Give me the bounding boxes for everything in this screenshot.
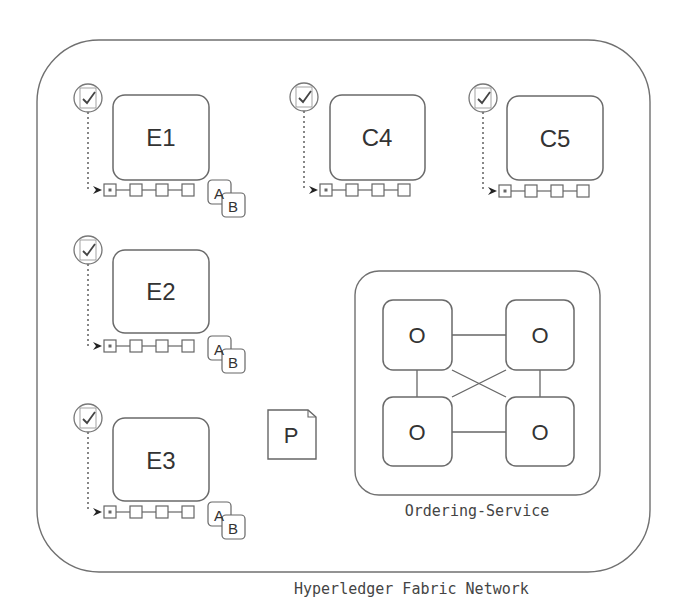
orderer-node-3[interactable]: O (383, 397, 452, 466)
peer-e3[interactable]: E3 A B (74, 404, 245, 539)
peer-label: C5 (540, 125, 571, 152)
svg-text:B: B (228, 354, 238, 371)
certificate-check-icon (469, 84, 497, 112)
ledger-chain-icon (309, 184, 410, 196)
chaincode-document-icon[interactable]: A B (208, 336, 245, 373)
ledger-chain-icon (93, 506, 194, 518)
svg-text:O: O (531, 420, 548, 445)
ledger-chain-icon (488, 185, 589, 197)
certificate-check-icon (74, 236, 102, 264)
orderer-node-4[interactable]: O (506, 397, 574, 466)
peer-c5[interactable]: C5 (469, 84, 603, 197)
svg-text:A: A (214, 341, 224, 358)
chaincode-document-icon[interactable]: A B (208, 502, 245, 539)
policy-label: P (284, 423, 299, 448)
svg-text:B: B (228, 520, 238, 537)
peer-c4[interactable]: C4 (290, 83, 425, 196)
svg-text:O: O (531, 323, 548, 348)
certificate-check-icon (74, 84, 102, 112)
svg-text:B: B (228, 198, 238, 215)
svg-text:A: A (214, 185, 224, 202)
peer-label: C4 (362, 124, 393, 151)
certificate-check-icon (290, 83, 318, 111)
ledger-chain-icon (93, 184, 194, 196)
ledger-chain-icon (93, 340, 194, 352)
svg-text:A: A (214, 507, 224, 524)
ordering-service-label: Ordering-Service (405, 502, 550, 520)
network-label: Hyperledger Fabric Network (294, 580, 529, 598)
peer-e2[interactable]: E2 A B (74, 236, 245, 373)
fabric-network-diagram: E1 A B C4 C5 E2 A B (0, 0, 677, 610)
peer-e1[interactable]: E1 A B (74, 84, 245, 217)
policy-document-icon[interactable]: P (268, 410, 316, 459)
chaincode-document-icon[interactable]: A B (208, 180, 245, 217)
svg-text:O: O (408, 323, 425, 348)
svg-text:O: O (408, 420, 425, 445)
ordering-service[interactable]: O O O O Ordering-Service (355, 271, 600, 520)
orderer-node-1[interactable]: O (383, 300, 452, 370)
orderer-node-2[interactable]: O (506, 300, 574, 370)
peer-label: E1 (146, 124, 175, 151)
certificate-check-icon (74, 404, 102, 432)
peer-label: E2 (146, 278, 175, 305)
peer-label: E3 (146, 447, 175, 474)
